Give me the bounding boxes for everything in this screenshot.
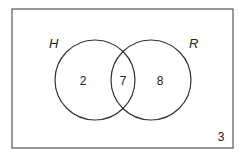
h-only-count: 2: [80, 74, 87, 88]
set-r-label: R: [189, 36, 198, 51]
set-h-label: H: [49, 36, 59, 51]
outside-count: 3: [218, 130, 225, 144]
r-only-count: 8: [157, 74, 164, 88]
intersection-count: 7: [120, 74, 127, 88]
venn-diagram: H R 2 7 8 3: [0, 0, 242, 158]
